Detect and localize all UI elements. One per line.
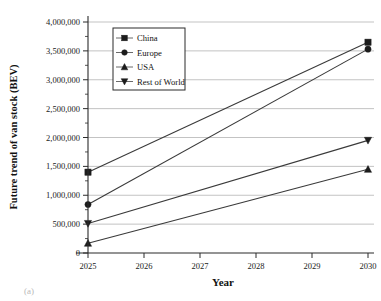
marker-square: [365, 39, 371, 45]
legend-label: Europe: [137, 48, 162, 58]
y-tick-label: 0: [76, 248, 80, 258]
y-tick-label: 2,500,000: [46, 104, 80, 114]
x-tick-label: 2028: [248, 261, 265, 271]
x-tick-label: 2027: [192, 261, 209, 271]
figure-caption: (a): [24, 286, 34, 296]
figure-panel: 0500,0001,000,0001,500,0002,000,0002,500…: [0, 0, 381, 301]
y-tick-label: 3,500,000: [46, 46, 80, 56]
x-axis-ticks: 202520262027202820292030: [80, 253, 377, 271]
x-tick-label: 2026: [136, 261, 153, 271]
x-tick-label: 2030: [360, 261, 377, 271]
chart-legend: ChinaEuropeUSARest of World: [113, 28, 186, 90]
x-tick-label: 2029: [304, 261, 321, 271]
x-axis-label: Year: [212, 276, 234, 288]
y-axis-ticks: 0500,0001,000,0001,500,0002,000,0002,500…: [46, 17, 88, 258]
y-tick-label: 1,500,000: [46, 161, 80, 171]
legend-label: China: [137, 33, 158, 43]
marker-square: [122, 35, 128, 41]
series-line: [88, 169, 368, 243]
y-axis-label: Future trend of van stock (BEV): [8, 64, 20, 210]
y-tick-label: 3,000,000: [46, 75, 80, 85]
x-tick-label: 2025: [80, 261, 97, 271]
series-usa: [84, 166, 371, 247]
legend-label: USA: [137, 62, 155, 72]
line-chart: 0500,0001,000,0001,500,0002,000,0002,500…: [0, 0, 381, 301]
y-tick-label: 1,000,000: [46, 190, 80, 200]
legend-label: Rest of World: [137, 77, 186, 87]
y-tick-label: 500,000: [52, 219, 80, 229]
marker-circle: [365, 46, 371, 52]
y-tick-label: 4,000,000: [46, 17, 80, 27]
marker-circle: [122, 50, 128, 56]
y-tick-label: 2,000,000: [46, 133, 80, 143]
